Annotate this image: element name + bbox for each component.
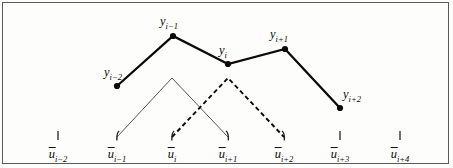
u-label-base: u bbox=[391, 148, 397, 161]
y-marker-i-minus-1 bbox=[170, 33, 176, 39]
y-marker-i-plus-2 bbox=[337, 105, 343, 111]
u-label-sub: i+2 bbox=[281, 154, 293, 164]
y-label-i: yi bbox=[219, 44, 227, 59]
y-label-i-minus-2: yi−2 bbox=[104, 66, 122, 81]
u-label-i-plus-1: ui+1 bbox=[219, 148, 238, 163]
y-label-i-plus-2: yi+2 bbox=[343, 88, 361, 103]
u-label-base: u bbox=[108, 148, 114, 161]
u-label-base: u bbox=[168, 148, 174, 161]
u-label-base: u bbox=[219, 148, 225, 161]
figure-container: yi−2 yi−1 yi yi+1 yi+2 ui−2 ui−1 ui ui+1… bbox=[0, 0, 453, 168]
u-label-i-minus-2: ui−2 bbox=[49, 148, 68, 163]
y-label-sub: i+1 bbox=[276, 34, 288, 44]
u-label-base: u bbox=[331, 148, 337, 161]
hat-function-left-curve bbox=[117, 78, 228, 137]
y-label-sub: i bbox=[225, 50, 227, 60]
u-label-i-plus-3: ui+3 bbox=[331, 148, 350, 163]
y-label-i-minus-1: yi−1 bbox=[160, 15, 178, 30]
u-label-base: u bbox=[49, 148, 55, 161]
u-label-sub: i+4 bbox=[397, 154, 409, 164]
y-marker-i-plus-1 bbox=[282, 46, 288, 52]
u-label-i-plus-2: ui+2 bbox=[275, 148, 294, 163]
y-label-sub: i−2 bbox=[110, 72, 122, 82]
y-marker-i-minus-2 bbox=[114, 83, 120, 89]
hat-function-right-curve bbox=[172, 78, 284, 137]
diagram-canvas bbox=[0, 0, 453, 168]
y-label-sub: i+2 bbox=[349, 94, 361, 104]
y-point-markers bbox=[114, 33, 343, 111]
u-label-sub: i−2 bbox=[55, 154, 67, 164]
u-label-sub: i bbox=[174, 154, 176, 164]
y-label-i-plus-1: yi+1 bbox=[270, 28, 288, 43]
y-label-sub: i−1 bbox=[166, 21, 178, 31]
y-marker-i bbox=[225, 61, 231, 67]
u-label-i-minus-1: ui−1 bbox=[108, 148, 127, 163]
u-label-sub: i−1 bbox=[114, 154, 126, 164]
u-label-sub: i+1 bbox=[225, 154, 237, 164]
y-cell-average-polyline bbox=[117, 36, 340, 108]
x-axis-tick-marks bbox=[58, 131, 400, 140]
u-label-sub: i+3 bbox=[337, 154, 349, 164]
u-label-base: u bbox=[275, 148, 281, 161]
u-label-i: ui bbox=[168, 148, 177, 163]
u-label-i-plus-4: ui+4 bbox=[391, 148, 410, 163]
